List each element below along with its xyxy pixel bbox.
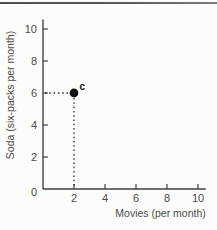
point-label: c (80, 81, 86, 92)
soda-movies-scatter-chart: 0246810246810cSoda (six-packs per month)… (0, 0, 217, 230)
top-rule (0, 2, 217, 4)
y-tick-label: 0 (31, 186, 37, 198)
x-tick-label: 8 (164, 192, 170, 204)
y-tick-label: 10 (25, 23, 37, 35)
data-point (70, 89, 79, 98)
y-axis-title: Soda (six-packs per month) (4, 31, 16, 159)
x-tick-label: 10 (192, 192, 204, 204)
y-tick-label: 8 (31, 55, 37, 67)
figure: 0246810246810cSoda (six-packs per month)… (0, 0, 217, 230)
x-tick-label: 2 (71, 192, 77, 204)
x-tick-label: 4 (102, 192, 108, 204)
y-tick-label: 6 (31, 87, 37, 99)
x-tick-label: 6 (133, 192, 139, 204)
x-axis-title: Movies (per month) (115, 207, 205, 219)
y-tick-label: 2 (31, 151, 37, 163)
y-tick-label: 4 (31, 119, 37, 131)
